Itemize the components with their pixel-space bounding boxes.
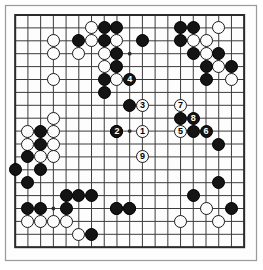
black-stone[interactable] [123,99,136,112]
black-stone[interactable] [225,60,238,73]
black-stone[interactable] [9,163,22,176]
go-board[interactable]: 123456789 [4,4,258,262]
move-number-label: 2 [114,126,119,135]
numbered-move-3[interactable]: 3 [136,99,149,112]
move-number-label: 9 [140,152,145,161]
move-number-label: 4 [127,75,132,84]
black-stone[interactable] [60,202,73,215]
black-stone[interactable] [225,202,238,215]
move-number-label: 5 [178,126,183,135]
black-stone[interactable] [98,34,111,47]
white-stone[interactable] [98,47,111,60]
white-stone[interactable] [200,47,213,60]
black-stone[interactable] [200,73,213,86]
black-stone[interactable] [85,228,98,241]
numbered-move-7[interactable]: 7 [174,99,187,112]
white-stone[interactable] [47,215,60,228]
white-stone[interactable] [47,138,60,151]
black-stone[interactable] [60,189,73,202]
white-stone[interactable] [21,138,34,151]
white-stone[interactable] [21,125,34,138]
black-stone[interactable] [98,86,111,99]
numbered-move-1[interactable]: 1 [136,125,149,138]
white-stone[interactable] [34,215,47,228]
white-stone[interactable] [174,215,187,228]
white-stone[interactable] [98,60,111,73]
white-stone[interactable] [47,125,60,138]
numbered-move-5[interactable]: 5 [174,125,187,138]
white-stone[interactable] [225,73,238,86]
numbered-move-2[interactable]: 2 [110,125,123,138]
black-stone[interactable] [187,189,200,202]
white-stone[interactable] [200,202,213,215]
white-stone[interactable] [47,47,60,60]
white-stone[interactable] [200,34,213,47]
move-number-label: 7 [178,100,183,109]
black-stone[interactable] [212,138,225,151]
black-stone[interactable] [187,125,200,138]
black-stone[interactable] [200,60,213,73]
black-stone[interactable] [34,125,47,138]
numbered-move-8[interactable]: 8 [187,112,200,125]
black-stone[interactable] [174,112,187,125]
move-number-label: 6 [203,126,208,135]
go-diagram: 123456789 [0,0,263,270]
black-stone[interactable] [187,47,200,60]
white-stone[interactable] [47,112,60,125]
black-stone[interactable] [34,138,47,151]
black-stone[interactable] [98,73,111,86]
numbered-move-6[interactable]: 6 [200,125,213,138]
white-stone[interactable] [60,215,73,228]
move-number-label: 3 [140,100,145,109]
move-number-label: 1 [140,126,145,135]
white-stone[interactable] [47,73,60,86]
move-number-label: 8 [191,113,196,122]
white-stone[interactable] [187,34,200,47]
